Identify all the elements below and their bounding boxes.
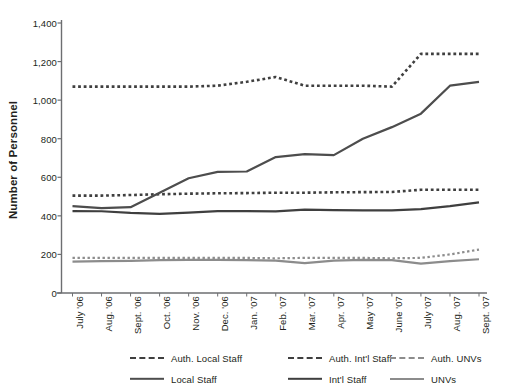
x-tick-label: Sept. '07 — [479, 296, 493, 334]
legend-label: Auth. Local Staff — [171, 353, 242, 364]
x-tick-label-wrap: July '06 — [66, 296, 80, 356]
x-tick-label: Apr. '07 — [334, 296, 348, 329]
legend-item-unvs[interactable]: UNVs — [390, 370, 456, 388]
legend-swatch-dotted-icon — [288, 353, 322, 363]
x-tick-label-wrap: Dec. '06 — [211, 296, 225, 356]
x-tick-label: Oct. '06 — [160, 296, 174, 329]
x-tick-label-wrap: Sept. '07 — [472, 296, 486, 356]
x-tick-label-wrap: June '07 — [385, 296, 399, 356]
x-tick-label: Nov. '06 — [189, 296, 203, 331]
x-tick-label-wrap: Feb. '07 — [269, 296, 283, 356]
x-tick-label-wrap: May '07 — [356, 296, 370, 356]
legend-item-auth-int-l-staff[interactable]: Auth. Int'l Staff — [288, 349, 392, 367]
x-tick-label-wrap: Jan. '07 — [240, 296, 254, 356]
x-tick-label: July '07 — [421, 296, 435, 329]
x-tick-label: May '07 — [363, 296, 377, 330]
x-tick-label: July '06 — [73, 296, 87, 329]
x-tick-label-wrap: Apr. '07 — [327, 296, 341, 356]
x-tick-label: Feb. '07 — [276, 296, 290, 331]
legend-item-auth-local-staff[interactable]: Auth. Local Staff — [130, 349, 242, 367]
legend-swatch-solid-icon — [390, 374, 424, 384]
x-tick-label-wrap: Mar. '07 — [298, 296, 312, 356]
legend-swatch-solid-icon — [130, 374, 164, 384]
legend-swatch-solid-icon — [288, 374, 322, 384]
legend-label: UNVs — [431, 374, 456, 385]
legend-item-auth-unvs[interactable]: Auth. UNVs — [390, 349, 482, 367]
x-tick-label: June '07 — [392, 296, 406, 332]
legend-label: Local Staff — [171, 374, 217, 385]
x-tick-label: Aug. '07 — [450, 296, 464, 331]
legend-swatch-dotted-icon — [390, 353, 424, 363]
x-tick-label: Mar. '07 — [305, 296, 319, 330]
legend-item-local-staff[interactable]: Local Staff — [130, 370, 217, 388]
x-tick-label: Aug. '06 — [102, 296, 116, 331]
x-tick-label: Dec. '06 — [218, 296, 232, 331]
legend-row: Auth. Local StaffAuth. Int'l StaffAuth. … — [0, 349, 505, 367]
x-tick-label-wrap: Sept. '06 — [124, 296, 138, 356]
x-axis-tick-labels: July '06Aug. '06Sept. '06Oct. '06Nov. '0… — [0, 0, 505, 391]
x-tick-label-wrap: Oct. '06 — [153, 296, 167, 356]
x-tick-label-wrap: Aug. '07 — [443, 296, 457, 356]
x-tick-label: Jan. '07 — [247, 296, 261, 330]
legend-label: Auth. UNVs — [431, 353, 482, 364]
legend-item-int-l-staff[interactable]: Int'l Staff — [288, 370, 367, 388]
x-tick-label: Sept. '06 — [131, 296, 145, 334]
line-chart: Number of Personnel 02004006008001,0001,… — [0, 0, 505, 391]
legend-label: Int'l Staff — [329, 374, 367, 385]
x-tick-label-wrap: July '07 — [414, 296, 428, 356]
x-tick-label-wrap: Aug. '06 — [95, 296, 109, 356]
legend-label: Auth. Int'l Staff — [329, 353, 392, 364]
legend-swatch-dotted-icon — [130, 353, 164, 363]
x-tick-label-wrap: Nov. '06 — [182, 296, 196, 356]
legend-row: Local StaffInt'l StaffUNVs — [0, 370, 505, 388]
chart-legend: Auth. Local StaffAuth. Int'l StaffAuth. … — [0, 349, 505, 391]
